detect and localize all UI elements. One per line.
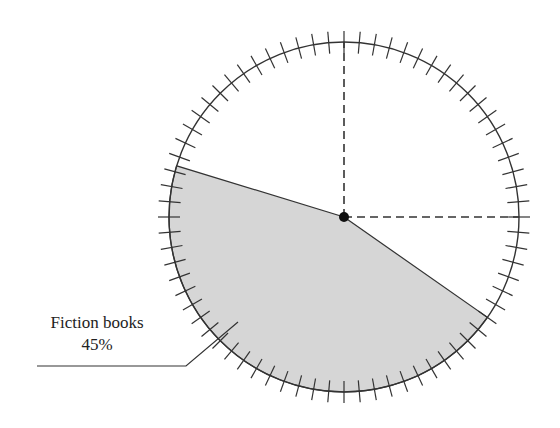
tick-mark	[183, 124, 202, 135]
center-dot	[339, 212, 349, 222]
tick-mark	[470, 97, 487, 111]
tick-mark	[202, 97, 219, 111]
tick-mark	[400, 42, 408, 63]
slice-label-percent: 45%	[32, 334, 162, 356]
tick-mark	[251, 56, 262, 75]
tick-mark	[449, 75, 463, 92]
tick-mark	[438, 65, 451, 83]
tick-mark	[478, 110, 496, 123]
tick-mark	[175, 138, 195, 147]
slice-label: Fiction books 45%	[32, 312, 162, 356]
tick-mark	[498, 273, 519, 281]
tick-mark	[224, 75, 238, 92]
tick-mark	[493, 286, 513, 295]
fiction-books-slice	[169, 166, 487, 392]
slice-group	[169, 166, 487, 392]
tick-mark	[280, 42, 288, 63]
tick-mark	[426, 56, 437, 75]
tick-mark	[493, 138, 513, 147]
tick-mark	[486, 299, 505, 310]
slice-label-name: Fiction books	[32, 312, 162, 334]
tick-mark	[192, 110, 210, 123]
tick-mark	[265, 48, 274, 68]
tick-mark	[498, 153, 519, 161]
tick-mark	[237, 65, 250, 83]
tick-mark	[486, 124, 505, 135]
tick-mark	[413, 48, 422, 68]
tick-mark	[169, 153, 190, 161]
pie-chart	[0, 0, 560, 428]
